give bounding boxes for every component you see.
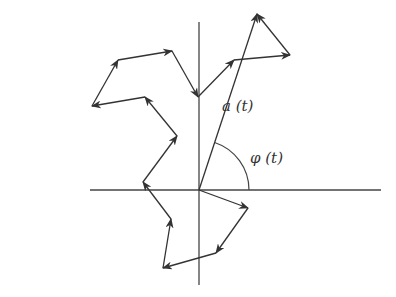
phasor-vector — [92, 60, 118, 106]
phasor-vector — [216, 208, 248, 253]
phasor-vector — [143, 136, 177, 182]
phasor-vector — [199, 190, 248, 208]
phasor-vector — [163, 253, 216, 268]
phasor-vector — [118, 51, 172, 60]
phase-angle-arc — [215, 143, 249, 190]
phasor-vector — [163, 219, 171, 268]
phasor-diagram: a (t) φ (t) — [0, 0, 396, 297]
amplitude-label: a (t) — [222, 97, 254, 115]
phasor-vector — [143, 182, 171, 219]
phasor-vector — [145, 97, 177, 136]
phasor-chain — [92, 14, 290, 268]
phase-label: φ (t) — [250, 149, 283, 167]
phasor-vector — [198, 60, 234, 97]
phasor-vector — [172, 51, 198, 97]
phasor-vector — [257, 14, 290, 55]
phasor-vector — [92, 97, 145, 106]
